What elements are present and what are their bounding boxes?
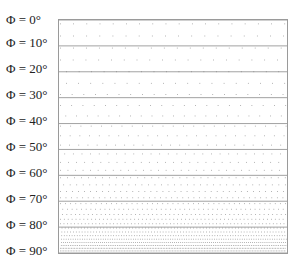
label-phi-10: Φ = 10° [6, 36, 48, 49]
label-phi-60: Φ = 60° [6, 166, 48, 179]
label-phi-80: Φ = 80° [6, 218, 48, 231]
latitude-band-lines [58, 20, 287, 253]
label-phi-20: Φ = 20° [6, 62, 48, 75]
plot-frame [59, 20, 288, 254]
label-phi-0: Φ = 0° [6, 13, 41, 26]
label-phi-70: Φ = 70° [6, 192, 48, 205]
label-phi-90: Φ = 90° [6, 244, 48, 257]
label-phi-50: Φ = 50° [6, 140, 48, 153]
label-phi-40: Φ = 40° [6, 114, 48, 127]
label-phi-30: Φ = 30° [6, 88, 48, 101]
sample-points [60, 23, 287, 250]
